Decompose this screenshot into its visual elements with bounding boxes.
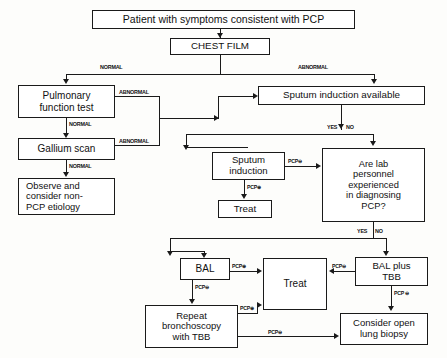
- edge-gallium-abnormal-h: [115, 145, 160, 146]
- node-patient-symptoms-label: Patient with symptoms consistent with PC…: [95, 14, 352, 26]
- edge-label-yes-lab: YES: [357, 228, 367, 234]
- edge-pulmonary-to-gallium: [66, 118, 67, 133]
- node-treat-lower: Treat: [263, 258, 327, 310]
- node-sputum-induction-line2: induction: [215, 166, 282, 177]
- edge-label-abnormal-right: ABNORMAL: [298, 64, 328, 70]
- arrow-bus-to-sputum-available: [371, 79, 377, 84]
- edge-label-pcp-neg-baltbb-biopsy: PCP ⊖: [394, 290, 409, 296]
- arrow-bus-to-pulmonary: [63, 79, 69, 84]
- edge-label-normal-gallium: NORMAL: [69, 163, 91, 169]
- flowchart-canvas: Patient with symptoms consistent with PC…: [0, 0, 447, 358]
- edge-pulmonary-abnormal-h: [115, 96, 160, 97]
- edge-abnormal-to-sputum-available: [218, 96, 254, 97]
- arrow-yes-drop-bal: [201, 253, 207, 258]
- edge-sputum-to-lab: [285, 166, 317, 167]
- node-bal-plus-tbb-line1: BAL plus: [358, 261, 425, 272]
- node-lab-line3: experienced: [325, 180, 422, 190]
- node-chest-film: CHEST FILM: [170, 38, 270, 55]
- edge-gallium-abnormal-v: [159, 118, 160, 146]
- node-treat-upper: Treat: [218, 200, 272, 218]
- edge-label-pcp-neg-sputum: PCP⊖: [288, 158, 302, 164]
- edge-sputum-to-treat: [244, 180, 245, 195]
- node-treat-upper-label: Treat: [221, 204, 269, 215]
- edge-chestfilm-stem: [220, 55, 221, 75]
- edge-label-abnormal-gallium: ABNORMAL: [119, 138, 149, 144]
- arrow-repeat-to-biopsy: [334, 333, 339, 339]
- edge-abnormal-up: [218, 96, 219, 119]
- node-pulmonary-function-test: Pulmonary function test: [18, 85, 115, 118]
- edge-abnormal-merge-h: [159, 118, 218, 119]
- edge-repeat-to-treat: [238, 313, 258, 314]
- node-bal-plus-tbb-line2: TBB: [358, 272, 425, 283]
- edge-baltbb-to-treat: [333, 271, 356, 272]
- arrow-no-to-lab: [370, 141, 376, 146]
- arrow-baltbb-to-biopsy: [388, 306, 394, 311]
- edge-yes-to-bal: [170, 238, 171, 252]
- arrow-bal-to-repeat: [189, 299, 195, 304]
- arrow-pulmonary-to-gallium: [63, 133, 69, 138]
- edge-label-yes-sputum: YES: [327, 124, 337, 130]
- node-patient-symptoms: Patient with symptoms consistent with PC…: [92, 10, 355, 29]
- edge-label-pcp-pos-bal: PCP⊕: [232, 263, 246, 269]
- node-lab-line5: PCP?: [325, 201, 422, 211]
- node-observe-line3: PCP etiology: [26, 202, 112, 213]
- node-pulmonary-line1: Pulmonary: [21, 90, 112, 101]
- node-bal: BAL: [180, 258, 230, 280]
- node-lab-line2: personnel: [325, 169, 422, 179]
- edge-yes-to-bal-h: [170, 251, 205, 252]
- node-gallium-scan-label: Gallium scan: [21, 143, 112, 154]
- node-repeat-line3: with TBB: [148, 332, 235, 343]
- node-open-lung-biopsy: Consider open lung biopsy: [340, 313, 428, 345]
- node-sputum-induction: Sputum induction: [212, 152, 285, 180]
- node-pulmonary-line2: function test: [21, 102, 112, 113]
- node-treat-lower-label: Treat: [266, 278, 324, 289]
- edge-label-pcp-neg-bal: PCP⊖: [195, 284, 209, 290]
- node-lab-line4: in diagnosing: [325, 190, 422, 200]
- node-sputum-available-label: Sputum induction available: [261, 90, 422, 101]
- arrow-gallium-to-observe: [63, 172, 69, 177]
- edge-baltbb-to-biopsy: [391, 286, 392, 307]
- node-open-biopsy-line2: lung biopsy: [343, 329, 425, 340]
- edge-yes-branch-h: [186, 147, 248, 148]
- node-bal-label: BAL: [183, 263, 227, 274]
- arrow-patient-to-chestfilm: [217, 33, 223, 38]
- edge-sputum-yesno-bus: [186, 134, 374, 135]
- edge-pulmonary-abnormal-v: [159, 96, 160, 118]
- edge-label-pcp-neg-baltbb-treat: PCP⊖: [332, 263, 346, 269]
- edge-label-pcp-pos-repeat: PCP⊕: [240, 305, 254, 311]
- node-repeat-bronchoscopy: Repeat bronchoscopy with TBB: [145, 305, 238, 348]
- node-lab-personnel-question: Are lab personnel experienced in diagnos…: [322, 148, 425, 222]
- edge-bal-to-repeat: [192, 280, 193, 300]
- arrow-bal-to-treat: [257, 268, 262, 274]
- edge-bal-to-treat: [230, 271, 258, 272]
- arrow-repeat-to-treat: [257, 302, 262, 308]
- edge-label-no-sputum: NO: [346, 124, 354, 130]
- edge-label-normal-left: NORMAL: [100, 64, 122, 70]
- edge-chestfilm-bus: [66, 74, 375, 75]
- node-chest-film-label: CHEST FILM: [173, 41, 267, 52]
- edge-lab-yesno-bus: [170, 238, 387, 239]
- node-lab-line1: Are lab: [325, 159, 422, 169]
- node-observe-non-pcp: Observe and consider non- PCP etiology: [18, 178, 115, 215]
- arrow-abnormal-to-sputum-available: [253, 93, 258, 99]
- arrow-sputum-to-lab: [316, 163, 321, 169]
- edge-label-no-lab: NO: [375, 228, 383, 234]
- arrow-sputum-to-treat: [241, 194, 247, 199]
- node-bal-plus-tbb: BAL plus TBB: [355, 257, 428, 286]
- edge-repeat-to-biopsy: [238, 336, 335, 337]
- node-sputum-induction-available: Sputum induction available: [258, 86, 425, 105]
- node-gallium-scan: Gallium scan: [18, 138, 115, 160]
- arrow-sputum-available-split: [338, 124, 344, 129]
- edge-label-abnormal-pulmonary: ABNORMAL: [119, 89, 149, 95]
- arrow-no-to-baltbb: [383, 251, 389, 256]
- edge-label-pcp-neg-repeat: PCP⊖: [268, 329, 282, 335]
- edge-no-to-baltbb: [386, 238, 387, 252]
- edge-label-pcp-pos-sputum: PCP⊕: [247, 184, 261, 190]
- edge-label-normal-pulmonary: NORMAL: [69, 121, 91, 127]
